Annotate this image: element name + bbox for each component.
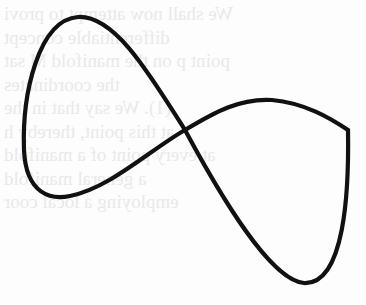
curve-path [24, 17, 348, 283]
figure-eight-curve [0, 0, 366, 305]
